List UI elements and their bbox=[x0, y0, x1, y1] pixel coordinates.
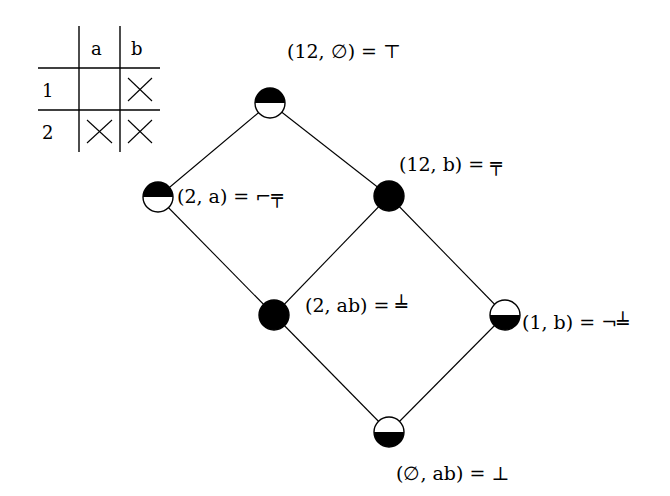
table-col-b: b bbox=[131, 40, 143, 58]
table-row-1: 1 bbox=[42, 82, 53, 100]
edge bbox=[274, 315, 389, 432]
label-right: (1, b) = ¬╧ bbox=[522, 313, 629, 332]
lattice-diagram bbox=[0, 0, 670, 496]
label-top: (12, ∅) = ⊤ bbox=[287, 42, 401, 61]
label-left: (2, a) = ⌐╤ bbox=[177, 187, 283, 206]
node-left bbox=[143, 182, 173, 212]
edge bbox=[158, 197, 274, 315]
edge bbox=[158, 103, 270, 197]
cross-icon bbox=[87, 120, 112, 143]
label-mid-right: (12, b) = ╤ bbox=[399, 155, 502, 174]
label-bottom: (∅, ab) = ⊥ bbox=[396, 464, 509, 483]
node-top bbox=[255, 88, 285, 118]
cross-icon bbox=[128, 120, 152, 143]
node-mid-right bbox=[374, 181, 404, 211]
node-bottom bbox=[374, 417, 404, 447]
cross-icon bbox=[128, 78, 152, 101]
node-center bbox=[259, 300, 289, 330]
edge bbox=[270, 103, 389, 196]
table-col-a: a bbox=[91, 40, 102, 58]
node-right bbox=[490, 300, 520, 330]
table-row-2: 2 bbox=[42, 124, 53, 142]
edge bbox=[389, 315, 505, 432]
label-center: (2, ab) = ╧ bbox=[305, 296, 407, 315]
